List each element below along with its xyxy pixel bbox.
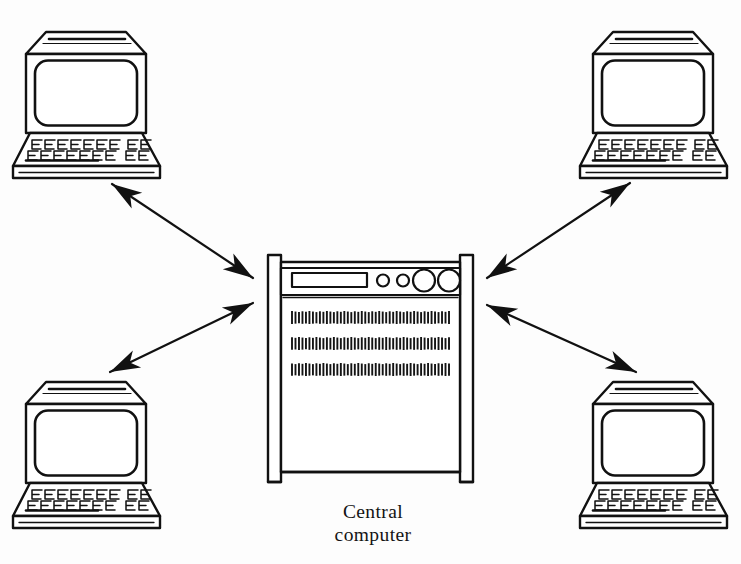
central-computer[interactable] bbox=[268, 255, 473, 482]
connection-bottom-right bbox=[483, 296, 640, 380]
panel-large-dial-1[interactable] bbox=[413, 270, 435, 292]
panel-small-dial-2[interactable] bbox=[397, 275, 409, 287]
caption-line-1: Central bbox=[343, 501, 403, 522]
terminal-top-left[interactable] bbox=[13, 32, 160, 178]
central-computer-caption: Central computer bbox=[335, 501, 412, 545]
panel-display-slot bbox=[292, 273, 367, 287]
cabinet-right-post bbox=[460, 255, 473, 482]
terminal-bottom-right[interactable] bbox=[580, 382, 727, 528]
terminal-top-right[interactable] bbox=[580, 32, 727, 178]
terminal-bottom-left[interactable] bbox=[13, 382, 160, 528]
cabinet-left-post bbox=[268, 255, 281, 482]
connection-top-right bbox=[482, 175, 636, 286]
network-diagram: Central computer bbox=[0, 0, 741, 564]
caption-line-2: computer bbox=[335, 524, 412, 545]
panel-small-dial-1[interactable] bbox=[377, 275, 389, 287]
diagram-svg: Central computer bbox=[0, 0, 741, 564]
connection-top-left bbox=[107, 176, 259, 286]
panel-large-dial-2[interactable] bbox=[438, 270, 460, 292]
connection-bottom-left bbox=[106, 294, 257, 380]
